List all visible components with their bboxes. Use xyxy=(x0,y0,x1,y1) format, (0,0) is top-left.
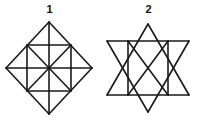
figure-2-hexagram-drawing xyxy=(99,16,198,121)
figures-panel: 1 2 xyxy=(0,0,198,121)
figure-2-container: 2 xyxy=(99,0,198,121)
figure-1-container: 1 xyxy=(0,0,99,121)
figure-1-label: 1 xyxy=(0,3,99,16)
figure-1-diamond-drawing xyxy=(0,16,99,121)
figure-2-label: 2 xyxy=(99,3,198,16)
